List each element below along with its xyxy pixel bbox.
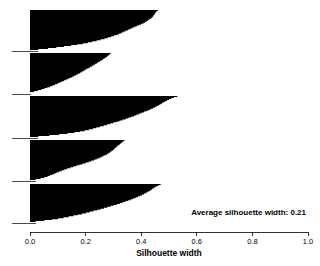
silhouette-chart-canvas: 0.00.20.40.60.81.0 Silhouette width Aver…: [0, 0, 320, 266]
x-tick-label-0.8: 0.8: [247, 237, 257, 246]
x-axis-ticks: [30, 232, 308, 236]
silhouette-bands-group: [30, 10, 177, 222]
cluster-2: [30, 53, 111, 93]
x-axis: 0.00.20.40.60.81.0: [25, 232, 313, 246]
cluster-1: [30, 10, 158, 50]
x-axis-title: Silhouette width: [136, 248, 202, 258]
cluster-3: [30, 96, 177, 137]
x-tick-label-1.0: 1.0: [303, 237, 313, 246]
average-silhouette-width-label: Average silhouette width: 0.21: [191, 208, 306, 217]
x-axis-tick-labels: 0.00.20.40.60.81.0: [25, 237, 313, 246]
silhouette-plot: 0.00.20.40.60.81.0 Silhouette width Aver…: [0, 0, 320, 266]
x-tick-label-0.6: 0.6: [192, 237, 202, 246]
x-tick-label-0.2: 0.2: [80, 237, 90, 246]
cluster-5: [30, 184, 161, 222]
x-tick-label-0.4: 0.4: [136, 237, 146, 246]
cluster-4: [30, 140, 125, 180]
x-tick-label-0.0: 0.0: [25, 237, 35, 246]
